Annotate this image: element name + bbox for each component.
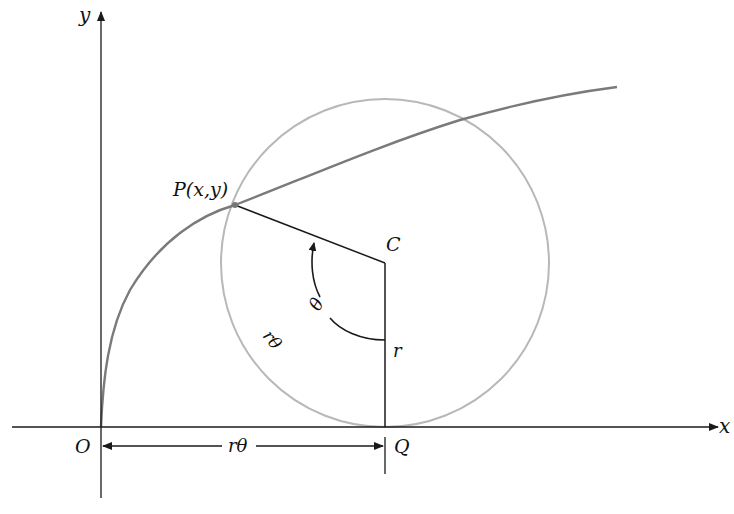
segment-pc xyxy=(235,205,385,263)
arc-length-label: rθ xyxy=(259,326,286,353)
origin-label: O xyxy=(75,435,91,457)
point-c-label: C xyxy=(386,233,401,255)
y-axis-label: y xyxy=(78,3,91,27)
point-p-label: P(x,y) xyxy=(172,178,228,200)
base-length-label: rθ xyxy=(228,435,248,456)
x-axis-label: x xyxy=(719,414,730,438)
cycloid-diagram: y x O P(x,y) C Q r θ rθ rθ xyxy=(0,0,734,514)
radius-label: r xyxy=(393,340,403,361)
point-p-marker xyxy=(232,202,238,208)
point-q-label: Q xyxy=(394,435,410,457)
angle-theta-arc-lower xyxy=(330,318,385,340)
angle-theta-label: θ xyxy=(304,294,328,314)
cycloid-curve xyxy=(101,87,617,427)
angle-theta-arc-upper xyxy=(312,243,320,297)
